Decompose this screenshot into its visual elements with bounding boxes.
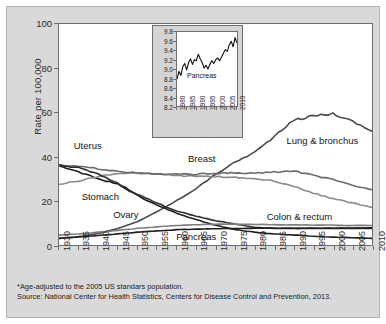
x-tick-mark	[314, 246, 315, 250]
inset-x-tick-mark	[196, 107, 197, 110]
y-tick-mark	[54, 157, 58, 158]
x-tick-label: 1945	[121, 231, 131, 251]
x-tick-mark	[176, 246, 177, 250]
x-tick-label: 1930	[62, 231, 72, 251]
inset-x-tick-mark	[226, 107, 227, 110]
y-axis-title: Rate per 100,000	[32, 27, 43, 167]
x-tick-mark	[156, 246, 157, 250]
inset-y-tick-mark	[173, 50, 176, 51]
x-tick-label: 2010	[377, 231, 386, 251]
y-tick-mark	[54, 68, 58, 69]
x-tick-label: 2005	[357, 231, 367, 251]
footnotes: *Age-adjusted to the 2005 US standars po…	[17, 282, 373, 302]
x-tick-label: 1955	[160, 231, 170, 251]
series-label-breast: Breast	[188, 153, 215, 164]
inset-y-tick-label: 8.6	[153, 85, 173, 92]
figure-panel: Rate per 100,000 020406080100 1930193519…	[6, 6, 380, 318]
inset-x-tick-mark	[206, 107, 207, 110]
series-label-ovary: Ovary	[113, 209, 138, 220]
series-label-pancreas: Pancreas	[176, 231, 216, 242]
y-tick-mark	[54, 201, 58, 202]
inset-y-tick-label: 9.6	[153, 37, 173, 44]
y-tick-mark	[54, 23, 58, 24]
x-tick-label: 1935	[81, 231, 91, 251]
series-label-stomach: Stomach	[82, 191, 120, 202]
x-tick-mark	[117, 246, 118, 250]
x-tick-mark	[353, 246, 354, 250]
series-label-lung-bronchus: Lung & bronchus	[286, 135, 358, 146]
y-tick-label: 80	[12, 62, 52, 73]
x-tick-label: 1940	[101, 231, 111, 251]
inset-y-tick-mark	[173, 60, 176, 61]
x-tick-label: 1975	[239, 231, 249, 251]
inset-y-tick-label: 9.2	[153, 56, 173, 63]
inset-x-tick-label: 2010	[239, 96, 246, 110]
inset-x-tick-label: 1995	[209, 96, 216, 110]
inset-series-label: Pancreas	[187, 72, 217, 79]
series-label-uterus: Uterus	[74, 140, 102, 151]
inset-chart-svg	[177, 32, 237, 106]
inset-y-tick-label: 8.4	[153, 94, 173, 101]
x-tick-mark	[373, 246, 374, 250]
x-tick-mark	[137, 246, 138, 250]
x-tick-mark	[196, 246, 197, 250]
y-tick-label: 60	[12, 107, 52, 118]
inset-x-tick-label: 2000	[219, 96, 226, 110]
inset-y-tick-label: 9.4	[153, 47, 173, 54]
inset-x-tick-mark	[216, 107, 217, 110]
x-tick-label: 1985	[278, 231, 288, 251]
x-tick-mark	[255, 246, 256, 250]
inset-x-tick-label: 1985	[189, 96, 196, 110]
inset-x-tick-mark	[186, 107, 187, 110]
inset-y-tick-mark	[173, 69, 176, 70]
x-tick-mark	[58, 246, 59, 250]
y-tick-label: 40	[12, 151, 52, 162]
x-tick-label: 1950	[140, 231, 150, 251]
x-tick-mark	[97, 246, 98, 250]
y-tick-label: 100	[12, 18, 52, 29]
inset-x-tick-label: 1980	[179, 96, 186, 110]
inset-y-tick-label: 8.8	[153, 75, 173, 82]
inset-y-tick-mark	[173, 31, 176, 32]
y-tick-label: 0	[12, 241, 52, 252]
inset-y-tick-mark	[173, 41, 176, 42]
x-tick-mark	[294, 246, 295, 250]
x-tick-label: 1970	[219, 231, 229, 251]
x-tick-mark	[216, 246, 217, 250]
inset-x-tick-mark	[176, 107, 177, 110]
x-tick-label: 2000	[337, 231, 347, 251]
x-tick-label: 1980	[258, 231, 268, 251]
x-tick-label: 1990	[298, 231, 308, 251]
footnote-age-adjustment: *Age-adjusted to the 2005 US standars po…	[17, 282, 373, 292]
x-tick-mark	[78, 246, 79, 250]
inset-x-tick-mark	[236, 107, 237, 110]
inset-y-tick-label: 9.0	[153, 66, 173, 73]
inset-y-tick-label: 9.8	[153, 28, 173, 35]
y-tick-label: 20	[12, 196, 52, 207]
inset-y-tick-mark	[173, 98, 176, 99]
inset-x-tick-label: 1990	[199, 96, 206, 110]
series-label-colon-rectum: Colon & rectum	[267, 211, 332, 222]
footnote-source: Source: National Center for Health Stati…	[17, 292, 373, 302]
y-tick-mark	[54, 112, 58, 113]
inset-y-tick-label: 8.2	[153, 104, 173, 111]
inset-y-tick-mark	[173, 79, 176, 80]
x-tick-mark	[275, 246, 276, 250]
x-tick-label: 1995	[317, 231, 327, 251]
x-tick-mark	[235, 246, 236, 250]
inset-y-tick-mark	[173, 88, 176, 89]
inset-x-tick-label: 2005	[229, 96, 236, 110]
inset-panel: 9.89.69.49.29.08.88.68.48.2 198019851990…	[152, 25, 243, 138]
x-tick-mark	[334, 246, 335, 250]
